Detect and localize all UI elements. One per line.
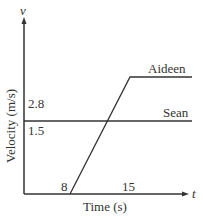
y-axis-arrow-icon	[22, 17, 27, 24]
y-axis-symbol: v	[20, 4, 26, 17]
x-axis-arrow-icon	[182, 192, 189, 197]
aideen-label: Aideen	[148, 62, 186, 75]
x-tick-15: 15	[122, 180, 135, 193]
y-tick-1-5: 1.5	[28, 124, 44, 137]
y-axis-title: Velocity (m/s)	[4, 89, 17, 163]
y-tick-2-8: 2.8	[28, 97, 44, 110]
aideen-line	[70, 77, 192, 194]
x-axis-symbol: t	[192, 187, 196, 200]
sean-label: Sean	[163, 106, 188, 119]
x-axis-title: Time (s)	[83, 200, 127, 213]
x-tick-8: 8	[61, 180, 68, 193]
